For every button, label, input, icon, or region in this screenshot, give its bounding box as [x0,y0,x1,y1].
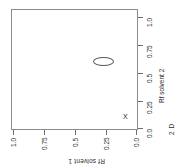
axis-tick-bottom [13,130,14,135]
axis-ticklabel-bottom: 0.5 [72,138,79,147]
axis-tick-bottom [44,130,45,135]
axis-ticklabel-right: 0.25 [146,101,153,114]
panel-label-2d: 2 D [168,123,175,135]
axis-title-rf-solvent-1: Rf solvent 1 [68,158,105,165]
axis-ticklabel-bottom: 0.25 [103,137,110,150]
axis-ticklabel-bottom: 0.75 [41,137,48,150]
axis-ticklabel-right: 0.5 [146,74,153,83]
axis-tick-right [138,45,143,46]
origin-marker-x: X [123,113,128,120]
axis-ticklabel-bottom: 1.0 [10,138,17,147]
axis-tick-bottom [136,130,137,135]
plot-frame [11,9,138,130]
axis-tick-right [138,73,143,74]
axis-ticklabel-right: 1.0 [146,18,153,27]
axis-tick-right [138,17,143,18]
chromatography-spot [93,57,114,66]
axis-tick-right [138,128,143,129]
axis-title-rf-solvent-2: Rf solvent 2 [158,69,165,103]
axis-ticklabel-bottom: 0.0 [133,138,140,147]
axis-ticklabel-right: 0.75 [146,45,153,58]
axis-tick-bottom [106,130,107,135]
figure-canvas: X 1.0 0.75 0.5 0.25 0.0 Rf solvent 2 1.0… [0,0,184,167]
axis-tick-right [138,101,143,102]
axis-ticklabel-right: 0.0 [146,129,153,138]
axis-tick-bottom [75,130,76,135]
